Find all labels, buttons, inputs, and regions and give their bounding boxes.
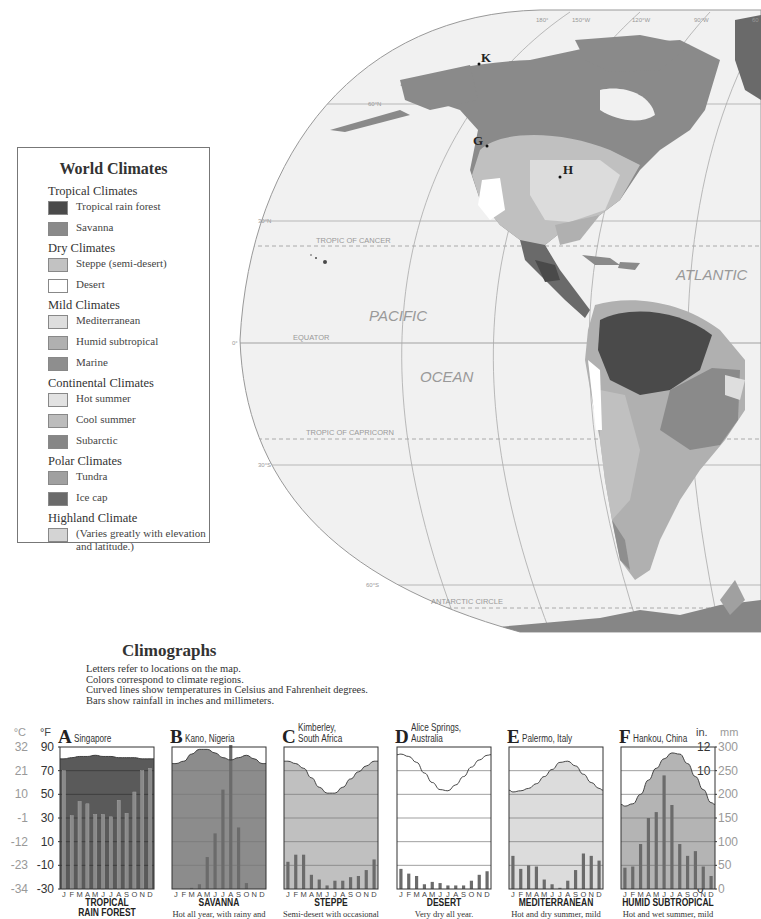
climate-type-label: SAVANNA bbox=[169, 898, 269, 908]
climograph-b: BKano, NigeriaJFMAMJJASONDSAVANNAHot all… bbox=[170, 720, 274, 918]
rainfall-bar bbox=[349, 877, 352, 889]
description-line: Curved lines show temperatures in Celsiu… bbox=[86, 685, 368, 696]
legend-label: Marine bbox=[76, 356, 108, 369]
svg-text:150°W: 150°W bbox=[572, 17, 590, 23]
rainfall-bar bbox=[623, 868, 626, 889]
rainfall-bar bbox=[655, 812, 658, 889]
climograph-plot bbox=[170, 745, 268, 891]
svg-text:0°: 0° bbox=[232, 340, 238, 346]
rainfall-bar bbox=[221, 790, 224, 889]
rainfall-bar bbox=[86, 804, 89, 889]
rainfall-bar bbox=[662, 775, 665, 889]
legend-label: Tropical rain forest bbox=[76, 200, 161, 213]
climate-type-label: DESERT bbox=[394, 898, 494, 908]
legend-item: Steppe (semi-desert) bbox=[48, 257, 209, 277]
legend-item: Desert bbox=[48, 278, 209, 298]
legend-group: Continental ClimatesHot summerCool summe… bbox=[48, 376, 209, 454]
rainfall-bar bbox=[535, 867, 538, 889]
legend-item: Cool summer bbox=[48, 413, 209, 433]
climograph-plot bbox=[282, 745, 380, 891]
legend-item: (Varies greatly with elevation and latit… bbox=[48, 527, 209, 557]
legend-swatch bbox=[48, 492, 68, 506]
climograph-plot bbox=[619, 745, 717, 891]
svg-text:EQUATOR: EQUATOR bbox=[293, 333, 330, 342]
climograph-location: Palermo, Italy bbox=[522, 733, 572, 745]
climate-caption: Semi-desert with occasional bbox=[274, 909, 388, 919]
legend-item: Tropical rain forest bbox=[48, 200, 209, 220]
climograph-location: Hankou, China bbox=[633, 733, 687, 745]
celsius-tick: 21 bbox=[15, 764, 28, 778]
celsius-tick: -12 bbox=[11, 835, 28, 849]
legend-group: Polar ClimatesTundraIce cap bbox=[48, 454, 209, 511]
climograph-heading: DAlice Springs, Australia bbox=[395, 722, 472, 745]
description-line: Bars show rainfall in inches and millime… bbox=[86, 696, 368, 707]
legend-label: Humid subtropical bbox=[76, 335, 158, 348]
legend-item: Subarctic bbox=[48, 434, 209, 454]
celsius-tick: 32 bbox=[15, 740, 28, 754]
climographs-panel: °C°F329021701050-130-1210-23-10-34-30 in… bbox=[0, 720, 761, 918]
legend-group-title: Highland Climate bbox=[48, 511, 209, 526]
legend-label: Hot summer bbox=[76, 392, 131, 405]
svg-text:K: K bbox=[481, 50, 492, 65]
legend-group-title: Continental Climates bbox=[48, 376, 209, 391]
rainfall-bar bbox=[423, 884, 426, 889]
svg-text:60°S: 60°S bbox=[366, 582, 379, 588]
climograph-letter: A bbox=[58, 728, 72, 745]
rainfall-bar bbox=[454, 885, 457, 889]
rainfall-bar bbox=[702, 867, 705, 889]
svg-text:TROPIC OF CANCER: TROPIC OF CANCER bbox=[316, 236, 391, 245]
celsius-tick: -34 bbox=[11, 882, 28, 896]
legend-label: Desert bbox=[76, 278, 105, 291]
rainfall-bar bbox=[478, 875, 481, 889]
climate-type-label: TROPICAL RAIN FOREST bbox=[57, 898, 157, 918]
climate-type-label: STEPPE bbox=[281, 898, 381, 908]
climograph-d: DAlice Springs, AustraliaJFMAMJJASONDDES… bbox=[395, 720, 499, 918]
climograph-f: FHankou, ChinaJFMAMJJASONDHUMID SUBTROPI… bbox=[619, 720, 723, 918]
climographs-title: Climographs bbox=[122, 641, 216, 661]
rainfall-bar bbox=[229, 745, 232, 889]
climate-type-label: HUMID SUBTROPICAL bbox=[618, 898, 718, 908]
legend-swatch bbox=[48, 201, 68, 215]
rainfall-bar bbox=[310, 875, 313, 889]
rainfall-bar bbox=[70, 816, 73, 889]
legend-swatch bbox=[48, 471, 68, 485]
rainfall-bar bbox=[438, 883, 441, 889]
legend-label: Mediterranean bbox=[76, 314, 140, 327]
rainfall-bar bbox=[462, 885, 465, 889]
climograph-location: Kano, Nigeria bbox=[185, 733, 235, 745]
rainfall-bar bbox=[590, 856, 593, 889]
legend-swatch bbox=[48, 258, 68, 272]
legend-group-title: Tropical Climates bbox=[48, 184, 209, 199]
temperature-area bbox=[60, 755, 154, 889]
legend-item: Hot summer bbox=[48, 392, 209, 412]
svg-text:ANTARCTIC CIRCLE: ANTARCTIC CIRCLE bbox=[431, 597, 503, 606]
climograph-letter: F bbox=[619, 728, 631, 745]
legend-label: Cool summer bbox=[76, 413, 136, 426]
climate-type-label: MEDITERRANEAN bbox=[506, 898, 606, 908]
rainfall-bar bbox=[431, 882, 434, 889]
fahrenheit-tick: 70 bbox=[41, 764, 54, 778]
svg-text:60: 60 bbox=[752, 17, 759, 23]
rainfall-bar bbox=[399, 869, 402, 889]
legend-item: Ice cap bbox=[48, 491, 209, 511]
rainfall-bar bbox=[109, 817, 112, 889]
rainfall-bar bbox=[333, 881, 336, 889]
fahrenheit-tick: 10 bbox=[41, 835, 54, 849]
rainfall-bar bbox=[294, 855, 297, 889]
climograph-heading: CKimberley, South Africa bbox=[282, 722, 352, 745]
world-climates-legend: World Climates Tropical ClimatesTropical… bbox=[17, 147, 210, 543]
climate-caption: Hot all year, with rainy and bbox=[162, 909, 276, 919]
svg-text:30°S: 30°S bbox=[258, 462, 271, 468]
legend-group-title: Dry Climates bbox=[48, 241, 209, 256]
rainfall-bar bbox=[372, 859, 375, 889]
rainfall-bar bbox=[357, 876, 360, 889]
legend-group: Highland Climate(Varies greatly with ele… bbox=[48, 511, 209, 557]
celsius-label: °C bbox=[14, 726, 26, 738]
legend-group-title: Mild Climates bbox=[48, 298, 209, 313]
rainfall-bar bbox=[148, 768, 151, 889]
climograph-location: Singapore bbox=[74, 733, 111, 745]
climate-caption: Hot and dry summer, mild bbox=[499, 909, 613, 919]
legend-swatch bbox=[48, 315, 68, 329]
legend-label: (Varies greatly with elevation and latit… bbox=[76, 527, 209, 553]
fahrenheit-tick: -30 bbox=[37, 882, 54, 896]
